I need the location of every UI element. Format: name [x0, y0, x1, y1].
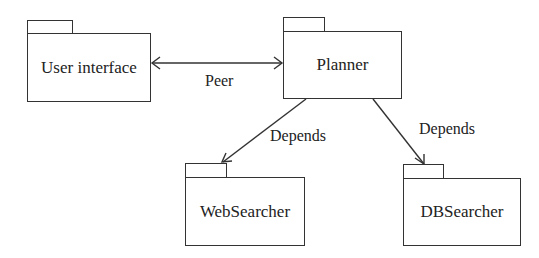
depends-label-websearcher: Depends [270, 127, 326, 145]
package-label: Planner [317, 55, 369, 75]
depends-edge-dbsearcher [373, 99, 424, 164]
package-planner[interactable]: Planner [283, 31, 402, 99]
peer-label: Peer [205, 72, 233, 90]
package-label: User interface [41, 58, 137, 78]
package-websearcher[interactable]: WebSearcher [185, 177, 305, 246]
peer-edge [152, 57, 282, 69]
package-tab-user-interface [27, 20, 73, 34]
package-label: WebSearcher [200, 202, 290, 222]
package-tab-websearcher [185, 163, 227, 178]
depends-label-dbsearcher: Depends [419, 120, 475, 138]
package-dbsearcher[interactable]: DBSearcher [403, 178, 521, 246]
package-user-interface[interactable]: User interface [27, 33, 151, 102]
package-tab-planner [283, 17, 325, 32]
package-label: DBSearcher [420, 202, 503, 222]
package-tab-dbsearcher [403, 164, 444, 179]
